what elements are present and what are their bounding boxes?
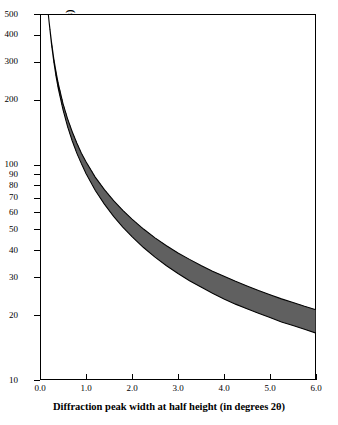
y-tick-mark [34,100,40,101]
y-tick-label: 100 [0,160,18,169]
y-tick-label: 60 [0,208,18,217]
y-tick-mark [34,185,40,186]
y-tick-label: 300 [0,57,18,66]
y-tick-mark [34,62,40,63]
y-tick-mark [34,212,40,213]
x-tick-mark [40,374,41,380]
x-tick-mark [132,374,133,380]
y-tick-mark [34,35,40,36]
y-tick-mark [34,165,40,166]
x-tick-label: 5.0 [255,384,285,393]
scherrer-band-curve [40,14,316,380]
y-tick-mark [34,229,40,230]
y-tick-label: 80 [0,181,18,190]
y-tick-mark [34,198,40,199]
y-tick-label: 200 [0,95,18,104]
y-tick-label: 30 [0,273,18,282]
x-tick-mark [316,374,317,380]
y-tick-label: 500 [0,10,18,19]
scherrer-band-fill [48,14,316,333]
y-tick-label: 50 [0,225,18,234]
y-tick-mark [34,315,40,316]
x-tick-mark [270,374,271,380]
x-tick-label: 2.0 [117,384,147,393]
y-tick-label: 90 [0,170,18,179]
x-tick-label: 6.0 [301,384,331,393]
y-tick-label: 20 [0,311,18,320]
x-tick-mark [86,374,87,380]
curve-layer [40,14,316,380]
y-tick-mark [34,277,40,278]
x-tick-mark [178,374,179,380]
x-axis-title: Diffraction peak width at half height (i… [0,401,338,412]
x-tick-label: 1.0 [71,384,101,393]
chart-root: Average size of crystals perpendicular t… [0,0,338,425]
y-tick-label: 10 [0,376,18,385]
x-tick-label: 3.0 [163,384,193,393]
y-tick-label: 400 [0,30,18,39]
y-tick-mark [34,174,40,175]
x-tick-label: 4.0 [209,384,239,393]
y-tick-mark [34,250,40,251]
y-tick-mark [34,14,40,15]
y-tick-label: 70 [0,193,18,202]
y-tick-label: 40 [0,246,18,255]
x-tick-label: 0.0 [25,384,55,393]
x-tick-mark [224,374,225,380]
y-tick-mark [34,380,40,381]
